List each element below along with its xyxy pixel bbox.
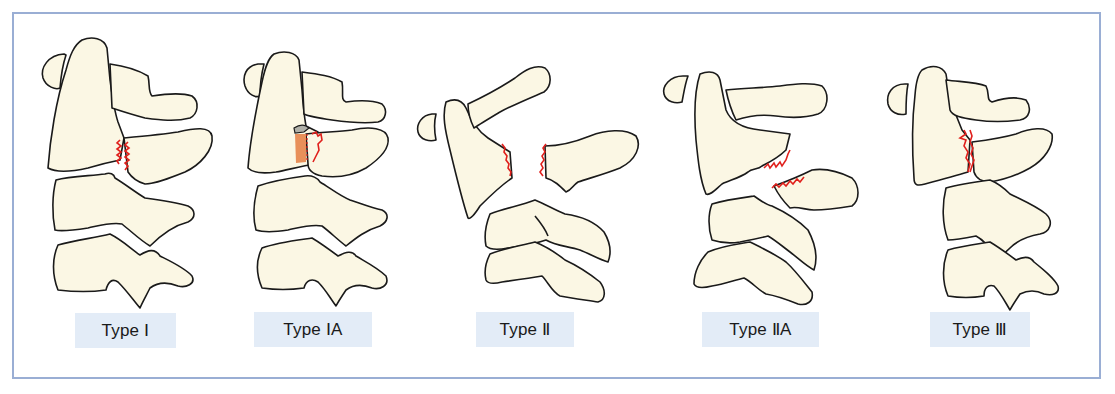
label-type-1a: Type ⅠA xyxy=(254,312,372,347)
label-text: Type Ⅱ xyxy=(500,319,551,340)
diagram-type-1a xyxy=(244,52,388,306)
label-text: Type Ⅰ xyxy=(102,320,150,341)
label-type-2a: Type ⅡA xyxy=(702,312,819,347)
diagram-type-1 xyxy=(42,38,212,308)
label-text: Type ⅠA xyxy=(283,319,342,340)
diagram-type-2a xyxy=(664,72,858,305)
label-text: Type Ⅲ xyxy=(953,319,1008,340)
label-type-1: Type Ⅰ xyxy=(75,313,176,348)
label-type-3: Type Ⅲ xyxy=(930,312,1030,347)
diagram-type-3 xyxy=(888,67,1059,310)
diagram-type-2 xyxy=(418,67,639,302)
label-text: Type ⅡA xyxy=(729,319,791,340)
label-type-2: Type Ⅱ xyxy=(476,312,574,347)
